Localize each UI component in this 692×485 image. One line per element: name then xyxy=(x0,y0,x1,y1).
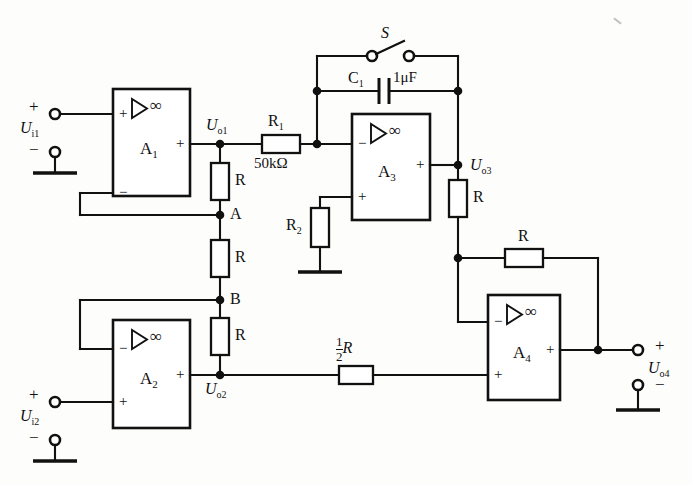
switch-blade[interactable] xyxy=(376,41,404,54)
switch-contact-left[interactable] xyxy=(367,51,377,61)
resistor-r1-index: 1 xyxy=(279,121,284,132)
uo1-letter: U xyxy=(206,116,218,133)
opamp-a1-noninv-pin: + xyxy=(119,106,127,121)
uo1-sub: o1 xyxy=(218,125,228,136)
ui2-sub: i2 xyxy=(32,416,40,427)
opamp-a2-index: 2 xyxy=(152,378,158,390)
resistor-r-feedback-horizontal-label: R xyxy=(518,228,529,244)
resistor-r-feedback-vertical-label: R xyxy=(473,189,484,205)
resistor-r-gain-top-label: R xyxy=(235,172,246,188)
opamp-a4-noninv-pin: + xyxy=(494,367,502,382)
opamp-a3-name: A xyxy=(378,162,390,181)
resistor-r-gain-mid-label: R xyxy=(235,249,246,265)
opamp-a4-index: 4 xyxy=(525,352,531,364)
opamp-a2-name: A xyxy=(140,369,152,388)
opamp-a1-inv-pin: − xyxy=(119,185,127,200)
circuit-schematic-svg xyxy=(0,0,692,485)
uo2-label: Uo2 xyxy=(205,381,227,400)
opamp-a4-out-pin: + xyxy=(546,342,554,357)
ui1-letter: U xyxy=(20,119,32,136)
resistor-half-r[interactable] xyxy=(339,366,373,384)
ui2-label: Ui2 xyxy=(20,408,39,427)
opamp-a2-out-pin: + xyxy=(176,367,184,382)
opamp-a3-label: A3 xyxy=(378,163,396,183)
infinity-symbol-a1: ∞ xyxy=(150,97,162,114)
uo1-label: Uo1 xyxy=(206,117,228,136)
uo4-plus-sign: + xyxy=(655,337,665,354)
resistor-r1-label: R1 xyxy=(268,113,284,132)
ui2-minus-sign: − xyxy=(29,429,39,446)
uo2-letter: U xyxy=(205,380,217,397)
opamp-a2-label: A2 xyxy=(140,370,158,390)
infinity-symbol-a3: ∞ xyxy=(389,122,401,139)
circuit-diagram-canvas: ∞ A1 + − + + Ui1 − Uo1 R1 50kΩ R R R A B… xyxy=(0,0,692,485)
node-b-label: B xyxy=(230,291,241,307)
opamp-a4-name: A xyxy=(513,343,525,362)
resistor-r-feedback-horizontal[interactable] xyxy=(505,249,543,267)
opamp-a1-label: A1 xyxy=(140,140,158,160)
opamp-a1-index: 1 xyxy=(152,148,158,160)
ui1-label: Ui1 xyxy=(20,120,39,139)
terminal-ui2-minus[interactable] xyxy=(50,435,60,445)
capacitor-c1-label: C1 xyxy=(348,70,364,89)
resistor-r1-value: 50kΩ xyxy=(254,156,288,171)
capacitor-c1-letter: C xyxy=(348,69,359,86)
resistor-r-gain-top[interactable] xyxy=(211,163,229,200)
resistor-r2-index: 2 xyxy=(297,225,302,236)
uo4-minus-sign: − xyxy=(655,376,665,393)
resistor-r-gain-bottom-label: R xyxy=(235,327,246,343)
opamp-a3-index: 3 xyxy=(390,171,396,183)
opamp-a3-noninv-pin: + xyxy=(358,189,366,204)
resistor-half-r-letter: R xyxy=(343,339,353,356)
terminal-ui1-minus[interactable] xyxy=(50,147,60,157)
uo4-letter: U xyxy=(648,359,660,376)
ui1-sub: i1 xyxy=(32,128,40,139)
opamp-a2-inv-pin: − xyxy=(119,341,127,356)
opamp-a4-inv-pin: − xyxy=(494,314,502,329)
resistor-r2-label: R2 xyxy=(286,217,302,236)
opamp-a3-inv-pin: − xyxy=(358,136,366,151)
uo2-sub: o2 xyxy=(217,389,227,400)
opamp-a1-name: A xyxy=(140,139,152,158)
node-a-label: A xyxy=(230,206,242,222)
terminal-ui1-plus[interactable] xyxy=(50,109,60,119)
opamp-a4-label: A4 xyxy=(513,344,531,364)
capacitor-c1-value: 1μF xyxy=(393,70,417,85)
junction-a4-output xyxy=(594,346,603,355)
ui1-plus-sign: + xyxy=(29,98,39,115)
resistor-r-gain-mid[interactable] xyxy=(211,240,229,277)
resistor-r1[interactable] xyxy=(262,135,300,153)
opamp-a2-noninv-pin: + xyxy=(119,394,127,409)
uo3-letter: U xyxy=(470,156,482,173)
infinity-symbol-a2: ∞ xyxy=(150,328,162,345)
capacitor-c1-index: 1 xyxy=(359,78,364,89)
ui1-minus-sign: − xyxy=(29,141,39,158)
resistor-r2-letter: R xyxy=(286,216,297,233)
resistor-half-r-label: 1 2 R xyxy=(336,335,352,363)
opamp-a3-out-pin: + xyxy=(416,157,424,172)
switch-s-label: S xyxy=(381,25,389,41)
terminal-ui2-plus[interactable] xyxy=(50,397,60,407)
resistor-r2[interactable] xyxy=(311,208,329,247)
infinity-symbol-a4: ∞ xyxy=(525,303,537,320)
resistor-r-gain-bottom[interactable] xyxy=(211,318,229,355)
resistor-r-feedback-vertical[interactable] xyxy=(449,180,467,217)
ui2-plus-sign: + xyxy=(29,386,39,403)
ui2-letter: U xyxy=(20,407,32,424)
uo3-label: Uo3 xyxy=(470,157,492,176)
terminal-uo4-minus[interactable] xyxy=(633,380,643,390)
switch-contact-right[interactable] xyxy=(404,51,414,61)
uo3-sub: o3 xyxy=(482,165,492,176)
opamp-a1-out-pin: + xyxy=(176,136,184,151)
terminal-uo4-plus[interactable] xyxy=(633,345,643,355)
resistor-r1-letter: R xyxy=(268,112,279,129)
